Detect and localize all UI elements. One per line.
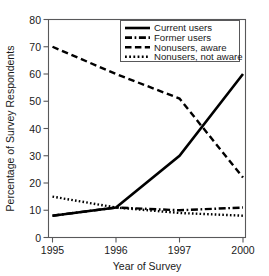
series-group (53, 47, 244, 216)
y-tick-label: 40 (29, 123, 41, 135)
y-tick-label: 60 (29, 68, 41, 80)
y-tick-label: 0 (35, 232, 41, 244)
y-tick-label: 20 (29, 177, 41, 189)
y-tick-label: 10 (29, 204, 41, 216)
x-tick-label: 1997 (168, 244, 192, 256)
y-tick-label: 70 (29, 41, 41, 53)
y-axis-tick-labels: 80 70 60 50 40 30 20 10 0 (29, 14, 41, 244)
line-chart: 80 70 60 50 40 30 20 10 0 Percentage of … (0, 0, 269, 276)
x-axis-ticks (53, 238, 244, 243)
x-tick-label: 2000 (231, 244, 255, 256)
y-axis-title: Percentage of Survey Respondents (4, 46, 16, 212)
y-axis-ticks (44, 20, 49, 238)
y-tick-label: 30 (29, 150, 41, 162)
x-tick-label: 1996 (104, 244, 128, 256)
x-axis-tick-labels: 1995 1996 1997 2000 (41, 244, 255, 256)
x-tick-label: 1995 (41, 244, 65, 256)
series-line-current-users (53, 74, 244, 216)
chart-figure: 80 70 60 50 40 30 20 10 0 Percentage of … (0, 0, 269, 276)
y-tick-label: 80 (29, 14, 41, 26)
legend-label-nonusers-not-aware: Nonusers, not aware (154, 51, 243, 62)
x-axis-title: Year of Survey (113, 260, 182, 272)
y-tick-label: 50 (29, 95, 41, 107)
legend: Current users Former users Nonusers, awa… (121, 21, 243, 63)
